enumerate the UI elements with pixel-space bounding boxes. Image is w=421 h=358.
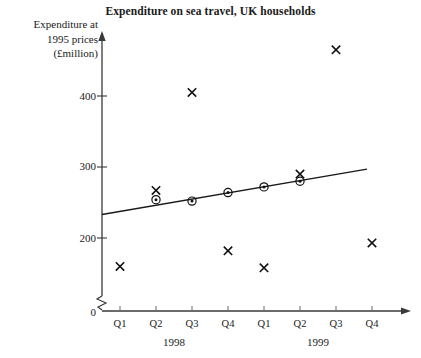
chart-container: Expenditure on sea travel, UK households…	[0, 0, 421, 358]
data-point-cross	[152, 186, 160, 194]
data-point-cross	[368, 239, 376, 247]
data-point-cross	[260, 264, 268, 272]
plot-area	[0, 0, 421, 358]
trend-line-segment	[102, 169, 367, 214]
y-axis-break-icon	[97, 296, 106, 310]
data-markers	[116, 46, 376, 272]
data-point-cross	[116, 262, 124, 270]
data-point-cross	[332, 46, 340, 54]
data-point-cross	[224, 247, 232, 255]
trend-line	[102, 169, 367, 214]
data-point-circled-dot	[152, 196, 160, 204]
x-axis-arrow-icon	[401, 307, 411, 314]
y-axis-arrow-icon	[98, 31, 105, 41]
data-point-circled-dot	[188, 197, 196, 205]
data-point-cross	[188, 88, 196, 96]
